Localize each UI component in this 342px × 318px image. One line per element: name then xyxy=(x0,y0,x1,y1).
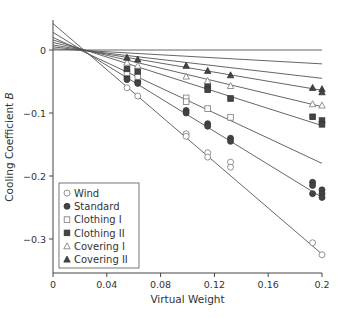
legend-label: Clothing I xyxy=(74,214,122,225)
y-tick-label: 0 xyxy=(40,45,46,56)
x-tick-label: 0 xyxy=(50,279,56,290)
legend-label: Clothing II xyxy=(74,228,125,239)
data-point xyxy=(319,102,325,108)
data-point xyxy=(205,154,211,160)
legend-label: Standard xyxy=(74,201,120,212)
data-point xyxy=(135,69,141,75)
data-point xyxy=(124,85,130,91)
data-point xyxy=(228,96,234,102)
data-point xyxy=(310,191,316,197)
data-point xyxy=(319,194,325,200)
data-point xyxy=(310,114,316,120)
data-point xyxy=(228,138,234,144)
data-point xyxy=(205,87,211,93)
x-tick-label: 0.16 xyxy=(258,279,279,290)
x-tick-label: 0.12 xyxy=(204,279,225,290)
legend-item-covering-ii: Covering II xyxy=(64,254,128,265)
data-point xyxy=(310,182,316,188)
y-axis-label: Cooling Coefficient B xyxy=(3,92,15,202)
y-axis-ticks: 0−0.1−0.2−0.3 xyxy=(23,45,53,245)
x-tick-label: 0.08 xyxy=(150,279,171,290)
y-tick-label: −0.2 xyxy=(23,171,46,182)
x-axis-label: Virtual Weight xyxy=(150,293,224,305)
series-covering-ii xyxy=(124,54,325,95)
data-point xyxy=(135,80,141,86)
data-point xyxy=(204,77,210,83)
fit-line xyxy=(53,47,322,79)
x-tick-label: 0.04 xyxy=(96,279,117,290)
data-point xyxy=(205,106,211,112)
legend-label: Wind xyxy=(74,188,99,199)
legend-label: Covering II xyxy=(74,254,128,265)
square-open-icon xyxy=(64,217,70,223)
data-point xyxy=(135,93,141,99)
cooling-coefficient-chart: 00.040.080.120.160.2 0−0.1−0.2−0.3 Virtu… xyxy=(0,0,342,318)
legend-item-clothing-ii: Clothing II xyxy=(64,228,124,239)
data-point xyxy=(309,84,315,90)
legend: WindStandardClothing IClothing IICoverin… xyxy=(59,183,139,268)
square-filled-icon xyxy=(64,230,70,236)
circle-filled-icon xyxy=(64,203,70,209)
y-tick-label: −0.3 xyxy=(23,234,46,245)
data-point xyxy=(205,123,211,129)
data-point xyxy=(183,62,189,68)
data-point xyxy=(124,66,130,72)
data-point xyxy=(228,115,234,121)
data-point xyxy=(183,99,189,105)
data-point xyxy=(319,252,325,258)
data-point xyxy=(228,164,234,170)
data-point xyxy=(183,110,189,116)
data-point xyxy=(310,240,316,246)
circle-open-icon xyxy=(64,190,70,196)
data-point xyxy=(124,77,130,83)
data-point xyxy=(183,133,189,139)
x-tick-label: 0.2 xyxy=(314,279,329,290)
x-axis-ticks: 00.040.080.120.160.2 xyxy=(50,273,330,290)
legend-label: Covering I xyxy=(74,241,125,252)
data-point xyxy=(319,122,325,128)
y-tick-label: −0.1 xyxy=(23,108,46,119)
